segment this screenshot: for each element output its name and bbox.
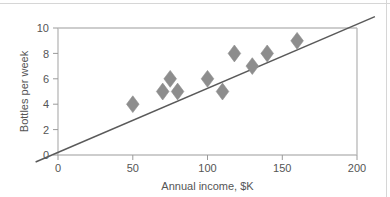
data-point-marker — [164, 70, 177, 87]
data-point-marker — [216, 83, 229, 100]
x-tick-label: 0 — [55, 162, 61, 174]
data-point-marker — [171, 83, 184, 100]
y-tick-labels: 10 8 6 4 2 0 — [37, 22, 49, 161]
y-tick-label: 10 — [37, 22, 49, 34]
data-point-marker — [201, 70, 214, 87]
data-point-marker — [261, 45, 274, 62]
x-tick-labels: 0 50 100 150 200 — [55, 162, 366, 174]
data-point-marker — [156, 83, 169, 100]
scatter-chart-figure: 10 8 6 4 2 0 0 50 100 150 200 Annual inc… — [0, 0, 390, 197]
y-axis-ticks — [53, 28, 58, 155]
data-point-marker — [291, 32, 304, 49]
x-axis-title: Annual income, $K — [161, 180, 254, 192]
data-point-marker — [246, 58, 259, 75]
y-tick-label: 2 — [43, 124, 49, 136]
chart-canvas: 10 8 6 4 2 0 0 50 100 150 200 Annual inc… — [0, 0, 390, 197]
y-tick-label: 6 — [43, 73, 49, 85]
x-tick-label: 100 — [198, 162, 216, 174]
data-point-marker — [127, 96, 140, 113]
x-axis-ticks — [58, 155, 357, 160]
x-tick-label: 200 — [348, 162, 366, 174]
y-tick-label: 4 — [43, 98, 49, 110]
plot-frame — [58, 28, 357, 155]
regression-trend-line — [36, 17, 375, 162]
y-axis-title: Bottles per week — [18, 50, 30, 132]
trend-line-group — [36, 17, 375, 162]
x-tick-label: 150 — [273, 162, 291, 174]
data-point-series — [127, 32, 304, 112]
data-point-marker — [228, 45, 241, 62]
y-tick-label: 8 — [43, 48, 49, 60]
y-tick-label: 0 — [43, 149, 49, 161]
x-tick-label: 50 — [127, 162, 139, 174]
